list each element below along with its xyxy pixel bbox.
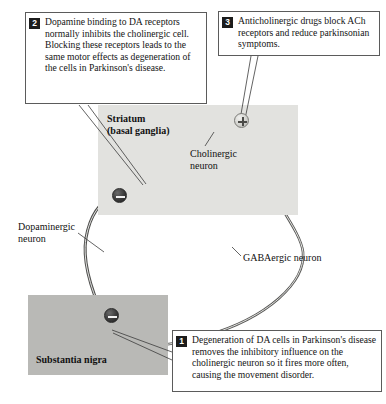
callout-number-badge-1: 1 xyxy=(176,336,187,347)
callout-box-2: 2 Dopamine binding to DA receptors norma… xyxy=(25,12,207,104)
callout-text-1: Degeneration of DA cells in Parkinson's … xyxy=(192,334,377,380)
callout-text-3: Anticholinergic drugs block ACh receptor… xyxy=(238,15,375,50)
excitation-plus-icon-cholinergic xyxy=(234,113,249,128)
figure-canvas: Striatum (basal ganglia) Substantia nigr… xyxy=(0,0,386,404)
gabaergic-neuron-label: GABAergic neuron xyxy=(243,252,321,264)
cholinergic-neuron-label: Cholinergic neuron xyxy=(190,148,237,172)
inhibition-minus-icon-striatum xyxy=(112,188,127,203)
callout-box-3: 3 Anticholinergic drugs block ACh recept… xyxy=(218,11,380,56)
callout-box-1: 1 Degeneration of DA cells in Parkinson'… xyxy=(172,330,382,392)
substantia-nigra-label: Substantia nigra xyxy=(36,354,107,366)
inhibition-minus-icon-nigra xyxy=(104,308,119,323)
dopaminergic-neuron-label: Dopaminergic neuron xyxy=(18,221,75,245)
callout-text-2: Dopamine binding to DA receptors normall… xyxy=(45,16,202,74)
callout-number-badge-3: 3 xyxy=(222,17,233,28)
striatum-label: Striatum (basal ganglia) xyxy=(107,113,170,136)
callout-number-badge-2: 2 xyxy=(29,18,40,29)
